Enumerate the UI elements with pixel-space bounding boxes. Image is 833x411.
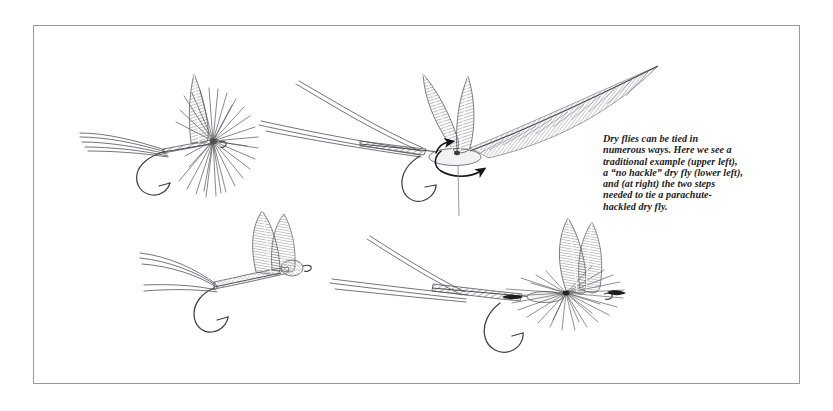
caption-block: Dry flies can be tied in numerous ways. …	[603, 133, 743, 212]
caption-text: Dry flies can be tied in numerous ways. …	[603, 133, 743, 212]
illustration-page: Dry flies can be tied in numerous ways. …	[0, 0, 833, 411]
